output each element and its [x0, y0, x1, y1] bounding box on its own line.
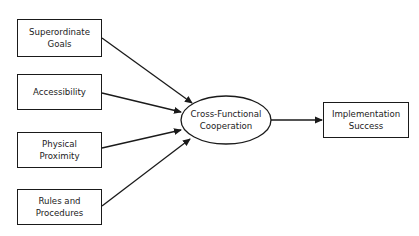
node-superordinate-goals: Superordinate Goals	[17, 19, 102, 57]
node-label: Accessibility	[33, 86, 86, 98]
edge-accessibility-to-cooperation	[102, 93, 181, 112]
node-label: Physical Proximity	[39, 138, 79, 162]
node-rules-and-procedures: Rules and Procedures	[17, 189, 102, 225]
edge-physical-proximity-to-cooperation	[102, 130, 181, 148]
node-implementation-success: Implementation Success	[323, 102, 409, 138]
node-label: Superordinate Goals	[29, 26, 90, 50]
edge-superordinate-goals-to-cooperation	[102, 38, 192, 103]
node-label: Implementation Success	[332, 108, 400, 132]
node-label: Cross-Functional Cooperation	[191, 108, 262, 132]
node-cross-functional-cooperation: Cross-Functional Cooperation	[181, 96, 271, 144]
edge-rules-and-procedures-to-cooperation	[102, 139, 190, 206]
node-label: Rules and Procedures	[36, 195, 84, 219]
node-accessibility: Accessibility	[17, 74, 102, 110]
node-physical-proximity: Physical Proximity	[17, 132, 102, 168]
